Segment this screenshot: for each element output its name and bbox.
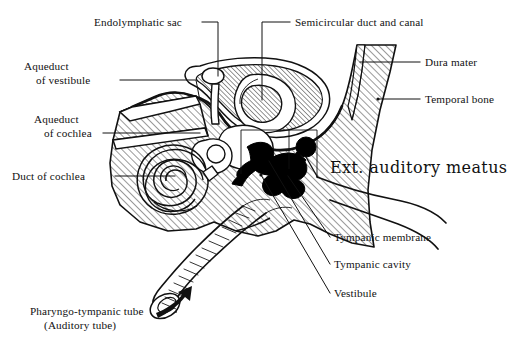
label-aqueduct-of-cochlea-line1: Aqueduct — [34, 113, 79, 125]
label-temporal-bone: Temporal bone — [425, 93, 494, 105]
label-endolymphatic-sac: Endolymphatic sac — [94, 16, 182, 28]
label-dura-mater: Dura mater — [425, 56, 477, 68]
label-pharyngo-tympanic-tube-line1: Pharyngo-tympanic tube — [30, 305, 144, 317]
label-semicircular-duct-and-canal: Semicircular duct and canal — [295, 16, 424, 28]
label-duct-of-cochlea: Duct of cochlea — [12, 170, 85, 182]
label-tympanic-cavity: Tympanic cavity — [334, 258, 411, 270]
label-tympanic-membrane: Tympanic membrane — [334, 231, 431, 243]
label-ext-auditory-meatus: Ext. auditory meatus — [330, 158, 507, 177]
label-aqueduct-of-cochlea-line2: of cochlea — [44, 127, 92, 139]
label-pharyngo-tympanic-tube-line2: (Auditory tube) — [44, 319, 116, 332]
label-aqueduct-of-vestibule-line1: Aqueduct — [24, 60, 69, 72]
label-vestibule: Vestibule — [334, 287, 377, 299]
label-aqueduct-of-vestibule-line2: of vestibule — [36, 74, 90, 86]
ear-anatomy-figure: Endolymphatic sac Semicircular duct and … — [0, 0, 516, 343]
